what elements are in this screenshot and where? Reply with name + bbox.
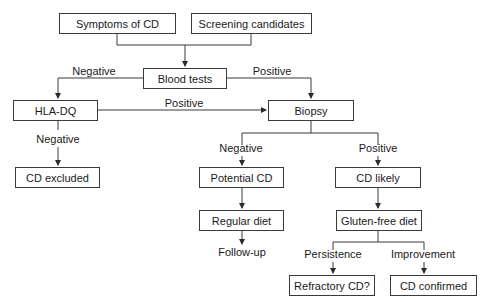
label-hla-negative: Negative: [36, 133, 79, 145]
label-biopsy-negative: Negative: [219, 142, 262, 154]
node-cd-confirmed: CD confirmed: [390, 275, 477, 296]
node-screening-candidates: Screening candidates: [191, 13, 312, 34]
node-biopsy: Biopsy: [268, 100, 354, 121]
node-follow-up: Follow-up: [218, 246, 266, 258]
node-hla-dq: HLA-DQ: [13, 100, 98, 121]
label-blood-negative: Negative: [72, 65, 115, 77]
node-gluten-free-diet: Gluten-free diet: [336, 210, 422, 231]
label-improvement: Improvement: [391, 248, 455, 260]
node-cd-likely: CD likely: [335, 167, 421, 188]
node-regular-diet: Regular diet: [199, 210, 284, 231]
node-cd-excluded: CD excluded: [15, 167, 100, 188]
label-blood-positive: Positive: [253, 65, 292, 77]
label-biopsy-positive: Positive: [359, 142, 398, 154]
node-blood-tests: Blood tests: [143, 68, 227, 89]
label-persistence: Persistence: [304, 248, 361, 260]
node-symptoms-of-cd: Symptoms of CD: [59, 13, 176, 34]
label-hla-positive: Positive: [165, 97, 204, 109]
node-refractory-cd: Refractory CD?: [289, 275, 375, 296]
node-potential-cd: Potential CD: [199, 167, 284, 188]
